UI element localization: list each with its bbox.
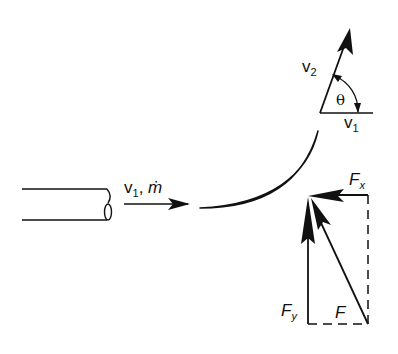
- fy-label: Fy: [281, 301, 298, 322]
- f-label: F: [335, 303, 347, 322]
- theta-label: θ: [336, 91, 345, 109]
- v2-arrowhead: [337, 28, 353, 55]
- jet-vane-diagram: v1, ṁ v2 θ v1 Fx Fy F: [0, 0, 398, 354]
- jet-velocity-arrow: [124, 198, 190, 210]
- f-arrowhead: [311, 198, 331, 230]
- fx-label: Fx: [349, 170, 365, 191]
- curved-vane: [200, 131, 318, 208]
- jet-label: v1, ṁ: [124, 178, 162, 199]
- theta-arrow-bottom: [354, 103, 361, 113]
- pipe-nozzle: [22, 189, 112, 220]
- velocity-triangle: [320, 28, 373, 113]
- v2-label: v2: [302, 57, 317, 78]
- v1-label: v1: [344, 113, 359, 134]
